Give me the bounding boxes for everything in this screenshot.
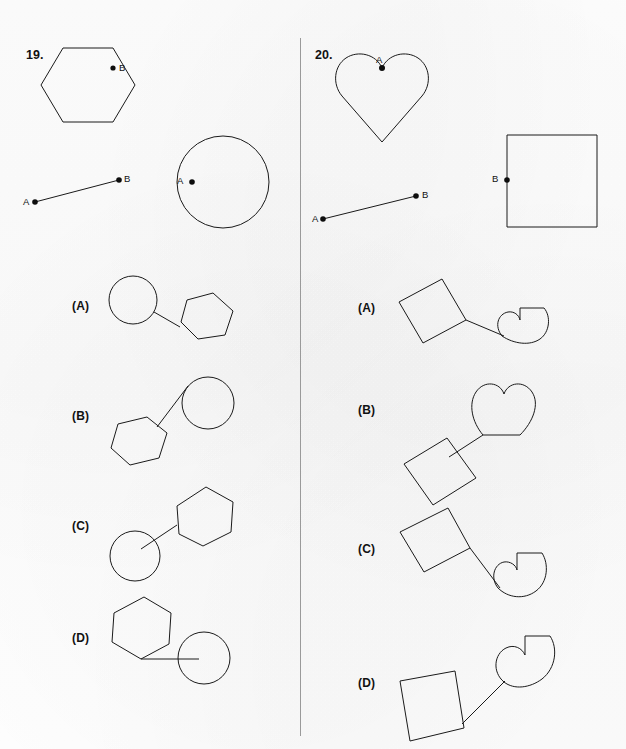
worksheet-page: 19. B A B A (A) (B) (C) (D)	[0, 0, 626, 749]
option-figure-20-a[interactable]	[394, 276, 544, 352]
option-figure-19-c[interactable]	[105, 482, 245, 577]
column-divider	[300, 38, 301, 736]
prompt-segment-a-label-19: A	[23, 196, 29, 207]
option-label-19-d[interactable]: (D)	[72, 631, 89, 645]
option-label-20-d[interactable]: (D)	[358, 676, 375, 690]
option-figure-20-d[interactable]	[392, 626, 547, 746]
option-label-20-b[interactable]: (B)	[358, 403, 375, 417]
prompt-circle-point-label-19: A	[177, 175, 183, 186]
option-label-19-a[interactable]: (A)	[72, 299, 89, 313]
prompt-segment-20	[316, 188, 428, 232]
prompt-segment-a-label-20: A	[312, 213, 318, 224]
prompt-circle-19	[174, 133, 274, 233]
option-label-19-b[interactable]: (B)	[72, 409, 89, 423]
prompt-segment-19	[28, 170, 132, 214]
option-figure-19-d[interactable]	[96, 586, 241, 686]
prompt-hexagon-point-label-19: B	[119, 62, 125, 73]
option-label-20-c[interactable]: (C)	[358, 542, 375, 556]
option-figure-20-c[interactable]	[392, 490, 547, 605]
option-label-20-a[interactable]: (A)	[358, 301, 375, 315]
prompt-square-20	[502, 131, 602, 233]
prompt-hexagon-19	[38, 44, 138, 128]
option-label-19-c[interactable]: (C)	[72, 519, 89, 533]
prompt-segment-b-label-19: B	[124, 173, 130, 184]
option-figure-20-b[interactable]	[392, 368, 542, 478]
prompt-segment-b-label-20: B	[422, 189, 428, 200]
option-figure-19-b[interactable]	[100, 374, 240, 470]
prompt-heart-point-label-20: A	[376, 54, 382, 65]
option-figure-19-a[interactable]	[105, 275, 245, 345]
prompt-square-point-label-20: B	[492, 173, 498, 184]
